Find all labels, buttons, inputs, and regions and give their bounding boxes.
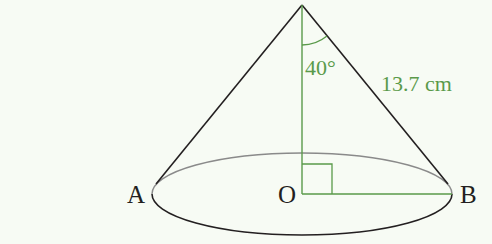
right-angle-marker — [302, 164, 332, 194]
cone-figure — [0, 0, 492, 244]
angle-label: 40° — [305, 57, 336, 79]
base-ellipse-front — [152, 194, 452, 235]
point-label-b: B — [460, 182, 477, 207]
angle-arc — [302, 36, 327, 45]
slant-height-label: 13.7 cm — [381, 73, 452, 95]
cone-diagram: 40° 13.7 cm A O B — [0, 0, 492, 244]
point-label-a: A — [127, 182, 145, 207]
point-label-o: O — [278, 182, 296, 207]
slant-edge-left — [156, 5, 302, 184]
